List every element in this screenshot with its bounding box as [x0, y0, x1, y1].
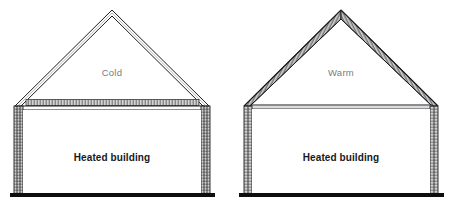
left-insulation-batt	[26, 100, 199, 106]
insulation-comparison-diagram: Cold Heated building	[0, 0, 449, 217]
right-roof-outer-edge	[244, 10, 438, 106]
left-ceiling-joist-band	[22, 106, 203, 110]
right-wall-right	[430, 106, 438, 195]
left-wall-right	[201, 106, 210, 195]
left-house-roof	[15, 10, 209, 106]
left-ceiling-insulation	[26, 100, 199, 106]
right-ceiling-structure	[251, 105, 432, 109]
left-roof-rafter-outline	[15, 10, 209, 106]
house-section-drawing: Cold Heated building	[0, 0, 449, 217]
right-roof-inner-edge	[250, 19, 432, 106]
left-wall-right-body	[201, 106, 210, 195]
right-house-group: Warm Heated building	[239, 10, 444, 197]
left-roof-shade-left	[18, 13, 112, 106]
left-attic-label: Cold	[102, 67, 123, 78]
left-ceiling-structure	[22, 106, 203, 110]
right-attic-label: Warm	[328, 67, 354, 78]
left-house-group: Cold Heated building	[10, 10, 215, 197]
right-room-label: Heated building	[303, 152, 380, 163]
left-room-label: Heated building	[74, 152, 151, 163]
left-wall-left-body	[14, 106, 23, 195]
right-wall-left	[244, 106, 252, 195]
left-ground-slab	[10, 193, 215, 197]
left-roof-shade-right	[112, 13, 206, 106]
right-house-roof	[244, 10, 438, 106]
right-ground-slab	[239, 193, 444, 197]
left-wall-left	[14, 106, 23, 195]
